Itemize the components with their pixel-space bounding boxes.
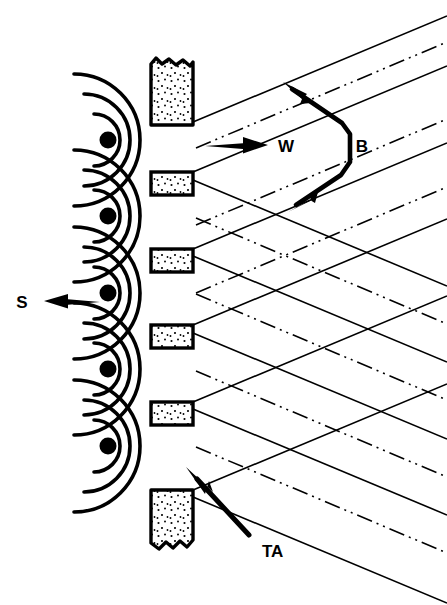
source-annotation: S (16, 293, 100, 312)
aperture-block (151, 249, 193, 272)
aperture-block-top (151, 55, 193, 127)
beam-annotation: B (283, 82, 368, 212)
source-dot (100, 132, 117, 149)
ta-label: TA (262, 542, 283, 561)
aperture-block-group (151, 55, 193, 552)
source-dot (100, 438, 117, 455)
beam-axis (196, 187, 447, 293)
wave-beam-diagram: S W B TA (0, 0, 447, 605)
wavefront-annotation: W (205, 137, 295, 156)
diagram-canvas: S W B TA (0, 0, 447, 605)
aperture-block-bottom (151, 488, 193, 552)
aperture-block (151, 172, 193, 195)
beam-label: B (356, 137, 368, 156)
source-dot (100, 208, 117, 225)
beam-axis (196, 119, 447, 225)
source-label: S (16, 293, 27, 312)
aperture-block (151, 325, 193, 348)
wavefront-arrow (205, 137, 268, 154)
wavefront-label: W (278, 137, 295, 156)
source-dot (100, 285, 117, 302)
beam-ray (193, 384, 447, 490)
aperture-block (151, 402, 193, 425)
source-dot (100, 361, 117, 378)
beam-axis (196, 42, 447, 148)
beam-arrowhead-top (283, 82, 311, 104)
beam-ray (193, 66, 447, 172)
